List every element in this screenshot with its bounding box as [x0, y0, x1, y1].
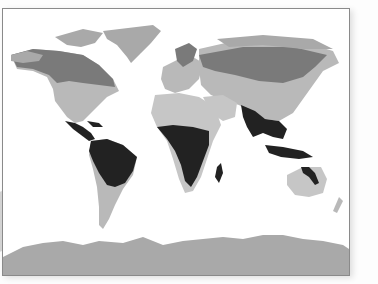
world-map-frame [2, 8, 350, 276]
world-map [3, 9, 349, 275]
